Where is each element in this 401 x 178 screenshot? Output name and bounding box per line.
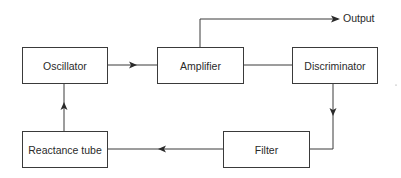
filter-label: Filter bbox=[255, 144, 278, 156]
filter-block: Filter bbox=[223, 131, 310, 168]
oscillator-block: Oscillator bbox=[22, 47, 108, 84]
reactance-tube-block: Reactance tube bbox=[22, 131, 108, 168]
output-label: Output bbox=[343, 12, 375, 24]
reactance-tube-label: Reactance tube bbox=[28, 144, 102, 156]
discriminator-block: Discriminator bbox=[292, 47, 378, 84]
amplifier-label: Amplifier bbox=[180, 60, 221, 72]
amplifier-block: Amplifier bbox=[157, 47, 244, 84]
oscillator-label: Oscillator bbox=[43, 60, 87, 72]
wire-discriminator-filter bbox=[309, 83, 333, 149]
discriminator-label: Discriminator bbox=[304, 60, 365, 72]
speck bbox=[395, 84, 396, 85]
wire-amplifier-output bbox=[200, 19, 338, 47]
